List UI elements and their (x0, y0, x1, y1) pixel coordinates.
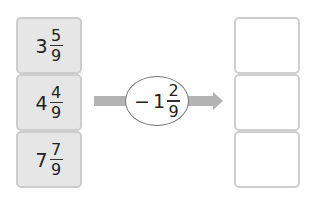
input-column: 3 5 9 4 4 9 7 7 9 (16, 17, 82, 188)
whole-part: 4 (35, 92, 47, 114)
arrow-shaft-out (188, 96, 214, 106)
arrow-shaft-in (94, 96, 128, 106)
mixed-number: 3 5 9 (35, 27, 62, 65)
answer-box-1[interactable] (234, 17, 300, 74)
mixed-number: 7 7 9 (35, 141, 62, 179)
denominator: 9 (168, 103, 178, 120)
input-box-1: 3 5 9 (16, 17, 82, 74)
output-column (234, 17, 300, 188)
whole-part: 7 (35, 149, 47, 171)
operation-oval: − 1 2 9 (125, 76, 189, 126)
numerator: 4 (51, 84, 61, 101)
denominator: 9 (51, 161, 61, 178)
operation-whole: 1 (153, 90, 165, 112)
input-box-3: 7 7 9 (16, 131, 82, 188)
denominator: 9 (51, 47, 61, 64)
numerator: 2 (168, 82, 178, 99)
minus-sign: − (134, 90, 150, 112)
mixed-number: 4 4 9 (35, 84, 62, 122)
denominator: 9 (51, 104, 61, 121)
input-box-2: 4 4 9 (16, 74, 82, 131)
answer-box-3[interactable] (234, 131, 300, 188)
whole-part: 3 (35, 35, 47, 57)
numerator: 7 (51, 141, 61, 158)
fraction: 7 9 (50, 141, 63, 179)
answer-box-2[interactable] (234, 74, 300, 131)
fraction: 5 9 (50, 27, 63, 65)
operation-fraction: 2 9 (167, 82, 180, 120)
numerator: 5 (51, 27, 61, 44)
fraction: 4 9 (50, 84, 63, 122)
arrow-right-icon (213, 92, 223, 110)
